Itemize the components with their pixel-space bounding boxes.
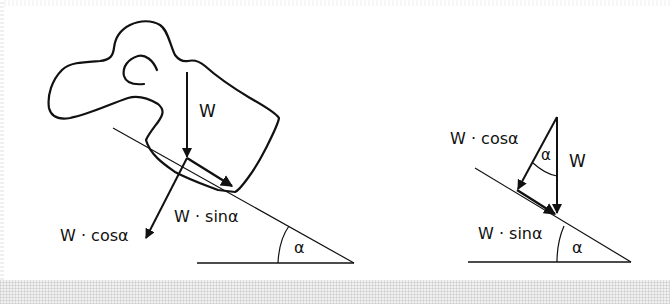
body-inner-curl	[124, 56, 157, 85]
left-angle-arc	[278, 226, 289, 263]
left-parallel-label: W · sinα	[174, 207, 239, 226]
right-normal-component-arrow	[518, 117, 557, 189]
left-normal-label: W · cosα	[60, 226, 129, 245]
bottom-caption-strip	[0, 280, 670, 304]
left-normal-component-arrow	[146, 158, 187, 238]
force-diagram: W W · sinα W · cosα α W · cosα α W W · s…	[0, 0, 670, 280]
right-triangle-angle-label: α	[541, 146, 551, 164]
right-incline-line	[475, 168, 631, 262]
left-angle-label: α	[294, 238, 305, 257]
right-parallel-component-arrow	[517, 190, 555, 214]
right-incline-angle-arc	[557, 226, 564, 262]
right-triangle-angle-arc	[533, 163, 557, 176]
left-panel: W W · sinα W · cosα α	[49, 21, 354, 263]
right-parallel-label: W · sinα	[478, 224, 543, 243]
right-panel: W · cosα α W W · sinα α	[450, 117, 631, 262]
right-normal-label: W · cosα	[450, 129, 519, 148]
diagram-canvas: W W · sinα W · cosα α W · cosα α W W · s…	[0, 0, 670, 304]
left-weight-label: W	[199, 101, 216, 121]
right-incline-angle-label: α	[572, 238, 583, 257]
body-outline	[49, 21, 279, 192]
right-weight-label: W	[569, 151, 586, 171]
